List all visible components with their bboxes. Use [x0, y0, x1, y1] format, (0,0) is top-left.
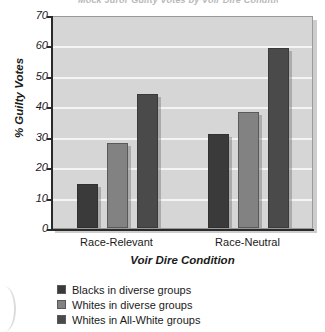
legend-swatch — [57, 285, 66, 294]
y-axis-title: % Guilty Votes — [13, 43, 25, 153]
y-tick-label: 50 — [4, 71, 48, 82]
bar-body — [208, 134, 229, 228]
legend-swatch — [57, 300, 66, 309]
bar-body — [268, 48, 289, 228]
bar-body — [77, 184, 98, 228]
bar — [268, 48, 289, 228]
bar — [137, 94, 158, 228]
legend-swatch — [57, 315, 66, 324]
y-tick-label: 0 — [4, 223, 48, 234]
y-tick-label: 30 — [4, 132, 48, 143]
bar — [208, 134, 229, 228]
bar-body — [137, 94, 158, 228]
x-axis-title: Voir Dire Condition — [51, 254, 314, 266]
bar — [77, 184, 98, 228]
legend-label: Blacks in diverse groups — [72, 284, 191, 296]
plot-area — [51, 16, 313, 229]
bar — [107, 143, 128, 228]
legend-label: Whites in All-White groups — [72, 314, 200, 326]
y-tick-label: 10 — [4, 193, 48, 204]
y-tick-label: 60 — [4, 40, 48, 51]
plot-area-wrapper — [51, 16, 313, 229]
y-tick-label: 70 — [4, 10, 48, 21]
x-category-label: Race-Neutral — [188, 236, 308, 248]
chart-title: Mock Juror Guilty Votes by Voir Dire Con… — [78, 0, 278, 5]
legend-item: Whites in diverse groups — [57, 297, 200, 312]
bar — [238, 112, 259, 228]
bar-body — [238, 112, 259, 228]
bar-body — [107, 143, 128, 228]
y-axis-line — [51, 16, 53, 230]
legend-item: Whites in All-White groups — [57, 312, 200, 327]
x-axis-line — [51, 229, 314, 231]
y-tick-label: 20 — [4, 162, 48, 173]
legend-item: Blacks in diverse groups — [57, 282, 200, 297]
x-category-label: Race-Relevant — [57, 236, 177, 248]
legend-label: Whites in diverse groups — [72, 299, 192, 311]
chart-legend: Blacks in diverse groupsWhites in divers… — [57, 282, 200, 327]
y-tick-label: 40 — [4, 101, 48, 112]
